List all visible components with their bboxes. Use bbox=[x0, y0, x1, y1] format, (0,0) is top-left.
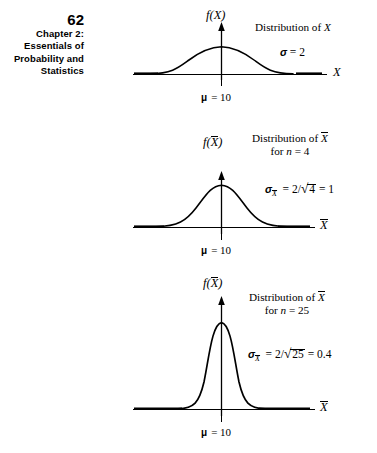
caption-line-1: Distribution of X bbox=[249, 291, 325, 304]
mean-label: μ = 10 bbox=[201, 241, 231, 257]
panel-caption: Distribution of X bbox=[255, 21, 331, 34]
x-axis-label: X bbox=[320, 219, 328, 232]
sigma-symbol: σ bbox=[265, 183, 272, 195]
mean-label: μ = 10 bbox=[201, 423, 231, 439]
mean-label: μ = 10 bbox=[201, 88, 231, 104]
sigma-symbol: σ bbox=[280, 46, 287, 58]
x-axis-label-text: X bbox=[320, 401, 328, 414]
sigma-annotation: σX = 2/√25 = 0.4 bbox=[248, 347, 331, 363]
y-axis-label-text: f(X) bbox=[203, 276, 222, 290]
sigma-subscript: X bbox=[255, 355, 260, 363]
sigma-expression: = 2/√25 = 0.4 bbox=[263, 348, 332, 360]
panel-caption: Distribution of X for n = 25 bbox=[249, 291, 325, 318]
y-axis-label: f(X) bbox=[203, 277, 222, 290]
mu-symbol: μ bbox=[201, 92, 207, 103]
textbook-page: 62 Chapter 2: Essentials of Probability … bbox=[0, 0, 377, 453]
x-axis-label: X bbox=[320, 401, 328, 414]
sigma-annotation: σX = 2/√4 = 1 bbox=[265, 182, 334, 198]
panel-distribution-of-x: f(X) Distribution of X σ = 2 μ = 10 X bbox=[0, 0, 377, 115]
normal-curve-graph-sigma-2 bbox=[0, 0, 377, 115]
panel-caption: Distribution of X for n = 4 bbox=[252, 132, 328, 159]
x-axis-label-text: X bbox=[320, 219, 328, 232]
sigma-annotation: σ = 2 bbox=[280, 47, 305, 59]
y-axis-arrowhead bbox=[218, 296, 225, 305]
caption-line-1: Distribution of X bbox=[252, 132, 328, 145]
caption-line-2: for n = 4 bbox=[252, 145, 328, 158]
mean-value: = 10 bbox=[211, 426, 231, 438]
y-axis-label-text: f(X) bbox=[203, 135, 222, 149]
sigma-symbol: σ bbox=[248, 348, 255, 360]
panel-distribution-of-xbar-n25: f(X) Distribution of X for n = 25 σX = 2… bbox=[0, 278, 377, 453]
mu-symbol: μ bbox=[201, 427, 207, 438]
caption-line-2: for n = 25 bbox=[249, 304, 325, 317]
mean-value: = 10 bbox=[211, 91, 231, 103]
sigma-expression: = 2 bbox=[290, 46, 305, 58]
mu-symbol: μ bbox=[201, 245, 207, 256]
y-axis-arrowhead bbox=[218, 171, 225, 180]
caption-text: Distribution of X bbox=[255, 21, 331, 33]
mean-value: = 10 bbox=[211, 244, 231, 256]
sigma-subscript: X bbox=[272, 190, 277, 198]
y-axis-arrowhead bbox=[218, 22, 225, 31]
y-axis-label: f(X) bbox=[203, 136, 222, 149]
y-axis-label: f(X) bbox=[206, 9, 225, 22]
sigma-expression: = 2/√4 = 1 bbox=[280, 183, 334, 195]
panel-distribution-of-xbar-n4: f(X) Distribution of X for n = 4 σX = 2/… bbox=[0, 128, 377, 268]
x-axis-label: X bbox=[333, 66, 341, 79]
